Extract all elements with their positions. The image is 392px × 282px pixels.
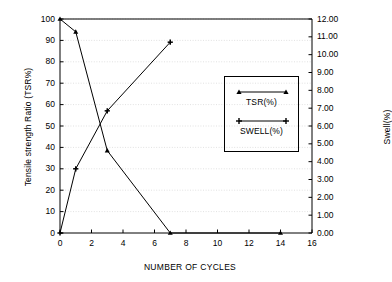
right-tick-3.00: 3.00 (317, 175, 349, 184)
x-tick-0: 0 (49, 239, 71, 248)
x-tick-4: 4 (112, 239, 134, 248)
x-tick-2: 2 (81, 239, 103, 248)
right-tick-12.00: 12.00 (317, 15, 349, 24)
y-axis-title-right: Swell(%) (382, 37, 392, 217)
chart-legend: TSR(%) SWELL(%) (224, 76, 299, 152)
right-tick-7.00: 7.00 (317, 104, 349, 113)
left-tick-100: 100 (29, 15, 55, 24)
right-tick-4.00: 4.00 (317, 157, 349, 166)
x-tick-8: 8 (175, 239, 197, 248)
right-tick-9.00: 9.00 (317, 68, 349, 77)
x-axis-title: NUMBER OF CYCLES (60, 262, 320, 272)
legend-label-tsr: TSR(%) (225, 97, 298, 107)
x-tick-12: 12 (238, 239, 260, 248)
x-tick-14: 14 (270, 239, 292, 248)
right-tick-5.00: 5.00 (317, 139, 349, 148)
right-tick-6.00: 6.00 (317, 122, 349, 131)
series-swell (57, 40, 172, 236)
legend-label-swell: SWELL(%) (225, 126, 298, 136)
right-tick-2.00: 2.00 (317, 193, 349, 202)
left-tick-0: 0 (29, 229, 55, 238)
right-tick-11.00: 11.00 (317, 32, 349, 41)
right-tick-10.00: 10.00 (317, 50, 349, 59)
x-tick-6: 6 (144, 239, 166, 248)
x-tick-10: 10 (207, 239, 229, 248)
legend-item-tsr: TSR(%) (225, 88, 298, 107)
legend-marker-triangle-icon (225, 88, 300, 96)
legend-marker-plus-icon (225, 117, 300, 125)
right-tick-0.00: 0.00 (317, 229, 349, 238)
right-tick-8.00: 8.00 (317, 86, 349, 95)
right-tick-1.00: 1.00 (317, 211, 349, 220)
y-axis-title-left: Tensile strength Ratio (TSR%) (23, 37, 33, 217)
x-tick-16: 16 (301, 239, 323, 248)
legend-item-swell: SWELL(%) (225, 117, 298, 136)
